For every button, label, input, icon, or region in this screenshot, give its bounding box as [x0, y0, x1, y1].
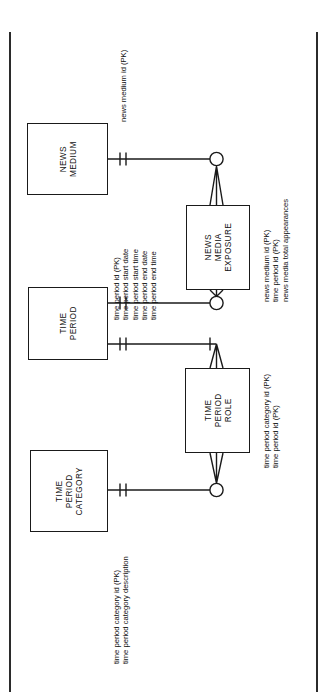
- entity-news-media-exposure-label: NEWS MEDIA EXPOSURE: [203, 223, 234, 272]
- entity-time-period[interactable]: TIME PERIOD: [28, 287, 108, 360]
- crows-foot-rel4: [210, 453, 223, 483]
- entity-news-media-exposure[interactable]: NEWS MEDIA EXPOSURE: [186, 205, 250, 290]
- attributes-time-period-category: time period category id (PK) time period…: [112, 556, 131, 664]
- attributes-time-period-role: time period category id (PK) time period…: [262, 374, 281, 468]
- optional-circle-rel2: [210, 296, 223, 309]
- entity-news-medium[interactable]: NEWS MEDIUM: [27, 123, 108, 195]
- entity-time-period-category-label: TIME PERIOD CATEGORY: [54, 467, 85, 516]
- er-diagram-canvas: NEWS MEDIUM news medium id (PK) TIME PER…: [0, 0, 327, 700]
- entity-news-medium-label: NEWS MEDIUM: [57, 141, 77, 177]
- crows-foot-rel3: [210, 344, 223, 368]
- entity-time-period-category[interactable]: TIME PERIOD CATEGORY: [30, 450, 108, 532]
- attributes-news-media-exposure: news medium id (PK) time period id (PK) …: [262, 199, 290, 302]
- attributes-news-medium: news medium id (PK): [119, 50, 128, 122]
- crows-foot-rel2: [210, 290, 223, 296]
- optional-circle-rel4: [210, 483, 223, 496]
- attributes-time-period: time period id (PK) time period start da…: [112, 249, 158, 320]
- entity-time-period-role[interactable]: TIME PERIOD ROLE: [185, 368, 250, 453]
- entity-time-period-label: TIME PERIOD: [58, 307, 78, 341]
- crows-foot-rel1: [210, 166, 223, 205]
- entity-time-period-role-label: TIME PERIOD ROLE: [202, 394, 233, 428]
- optional-circle-rel1: [210, 152, 223, 165]
